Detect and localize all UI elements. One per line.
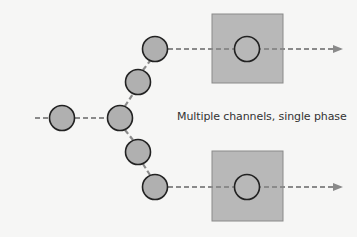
customer-hub [108,106,133,131]
diagram-caption: Multiple channels, single phase [177,110,347,123]
customer-queue-bottom-1 [126,140,151,165]
customer-queue-top-2 [143,37,168,62]
flow-line-hub-up [125,94,133,106]
customer-queue-top-1 [126,70,151,95]
customer-queue-bottom-2 [143,175,168,200]
customer-arriving [50,106,75,131]
flow-line-up-top [143,61,150,70]
customer-in-service-top [235,37,260,62]
flow-line-hub-down [125,130,133,140]
queueing-diagram: Multiple channels, single phase [0,0,357,237]
customer-in-service-bottom [235,175,260,200]
flow-line-down-bottom [143,164,150,175]
